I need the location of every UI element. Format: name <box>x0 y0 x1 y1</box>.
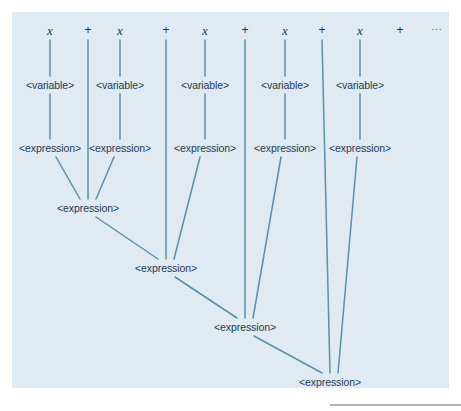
tree-edge <box>96 157 114 199</box>
terminal-operator-10: + <box>396 24 403 36</box>
tree-edge <box>56 157 80 199</box>
tree-edge <box>174 157 200 259</box>
variable-node-4: <variable> <box>261 80 309 91</box>
expression-node-3: <expression> <box>174 143 236 154</box>
variable-node-5: <variable> <box>336 80 384 91</box>
expression-node-1: <expression> <box>19 143 81 154</box>
expression-node-6: <expression> <box>57 203 119 214</box>
tree-edge <box>322 40 330 373</box>
terminal-variable-5: x <box>202 24 208 37</box>
variable-node-3: <variable> <box>181 80 229 91</box>
expression-node-4: <expression> <box>254 143 316 154</box>
terminal-variable-9: x <box>357 24 363 37</box>
expression-node-7: <expression> <box>135 263 197 274</box>
terminal-operator-8: + <box>318 24 325 36</box>
expression-node-9: <expression> <box>299 377 361 388</box>
tree-edge <box>253 157 281 318</box>
derivation-tree-figure: x+x+x+x+x+⋯ <variable><variable><variabl… <box>0 0 461 411</box>
tree-edge <box>338 157 357 373</box>
terminal-operator-4: + <box>162 24 169 36</box>
variable-node-2: <variable> <box>96 80 144 91</box>
expression-node-5: <expression> <box>329 143 391 154</box>
tree-edge <box>254 336 322 373</box>
expression-node-8: <expression> <box>214 322 276 333</box>
variable-node-1: <variable> <box>26 80 74 91</box>
tree-edge <box>96 217 158 259</box>
tree-edge <box>175 277 237 318</box>
terminal-variable-3: x <box>117 24 123 37</box>
expression-node-2: <expression> <box>89 143 151 154</box>
terminal-ellipsis-11: ⋯ <box>431 25 443 36</box>
bottom-rule <box>330 404 461 406</box>
terminal-operator-2: + <box>84 24 91 36</box>
terminal-variable-7: x <box>282 24 288 37</box>
terminal-variable-1: x <box>47 24 53 37</box>
terminal-operator-6: + <box>241 24 248 36</box>
